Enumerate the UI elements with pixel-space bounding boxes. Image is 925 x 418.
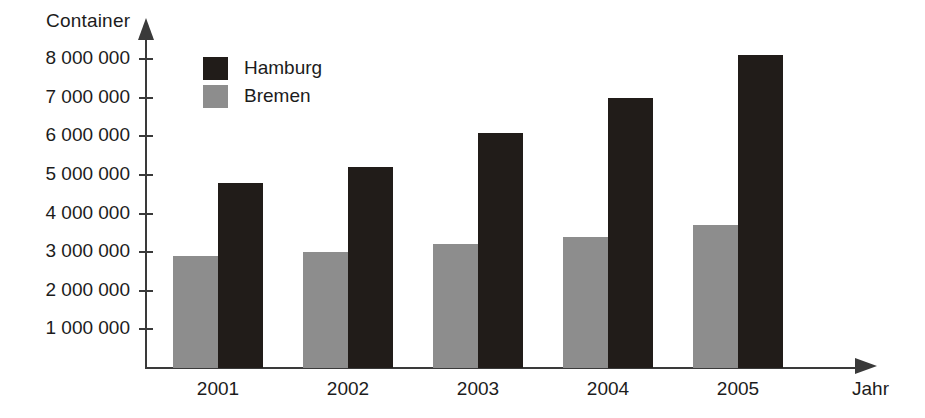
x-axis-title: Jahr bbox=[852, 378, 889, 400]
bar-hamburg-2003 bbox=[478, 133, 523, 368]
bar-hamburg-2005 bbox=[738, 55, 783, 368]
bar-bremen-2001 bbox=[173, 256, 218, 368]
legend-swatch-hamburg bbox=[203, 57, 228, 80]
bar-chart: Container 1 000 0002 000 0003 000 0004 0… bbox=[0, 0, 925, 418]
legend: HamburgBremen bbox=[203, 54, 322, 110]
bar-bremen-2003 bbox=[433, 244, 478, 368]
x-axis-tick-label-2005: 2005 bbox=[678, 378, 798, 400]
bar-bremen-2004 bbox=[563, 237, 608, 368]
legend-label-bremen: Bremen bbox=[244, 85, 311, 107]
x-axis-tick-label-2004: 2004 bbox=[548, 378, 668, 400]
bar-hamburg-2002 bbox=[348, 167, 393, 368]
legend-swatch-bremen bbox=[203, 85, 228, 108]
x-axis-tick-label-2003: 2003 bbox=[418, 378, 538, 400]
bar-hamburg-2004 bbox=[608, 98, 653, 368]
legend-item-bremen: Bremen bbox=[203, 82, 322, 110]
legend-item-hamburg: Hamburg bbox=[203, 54, 322, 82]
bar-bremen-2002 bbox=[303, 252, 348, 368]
x-axis-tick-label-2001: 2001 bbox=[158, 378, 278, 400]
bar-hamburg-2001 bbox=[218, 183, 263, 368]
bar-bremen-2005 bbox=[693, 225, 738, 368]
plot-area bbox=[0, 0, 925, 368]
x-axis-tick-label-2002: 2002 bbox=[288, 378, 408, 400]
legend-label-hamburg: Hamburg bbox=[244, 57, 322, 79]
